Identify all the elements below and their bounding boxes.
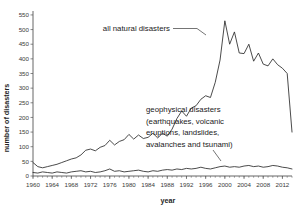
y-tick-label: 100 (19, 143, 30, 150)
x-tick-label: 2004 (237, 181, 251, 188)
y-tick-label: 350 (19, 70, 30, 77)
annotation-geophysical-line: (earthquakes, volcanic (146, 117, 224, 126)
x-tick-label: 2000 (218, 181, 232, 188)
x-tick-label: 1992 (180, 181, 194, 188)
y-tick-label: 400 (19, 55, 30, 62)
x-tick-label: 1976 (103, 181, 117, 188)
x-axis-ticks: 1960196419681972197619801984198819921996… (26, 176, 290, 188)
y-tick-label: 150 (19, 128, 30, 135)
y-tick-label: 250 (19, 99, 30, 106)
leader-line-geophysical (213, 150, 221, 161)
y-tick-label: 550 (19, 11, 30, 18)
leader-line-all-natural (173, 29, 206, 36)
annotation-geophysical-disasters: geophysical disasters(earthquakes, volca… (146, 105, 233, 149)
x-tick-label: 2012 (276, 181, 290, 188)
y-tick-label: 500 (19, 26, 30, 33)
x-tick-label: 1988 (160, 181, 174, 188)
x-tick-label: 1996 (199, 181, 213, 188)
x-tick-label: 1968 (64, 181, 78, 188)
y-tick-label: 200 (19, 114, 30, 121)
chart-figure: 050100150200250300350400450500550 196019… (0, 0, 298, 207)
y-tick-label: 450 (19, 40, 30, 47)
y-tick-label: 50 (22, 158, 29, 165)
x-tick-label: 1984 (141, 181, 155, 188)
y-axis-ticks: 050100150200250300350400450500550 (19, 11, 33, 179)
y-axis-label: number of disasters (2, 84, 11, 153)
x-tick-label: 1972 (84, 181, 98, 188)
x-tick-label: 1980 (122, 181, 136, 188)
annotation-geophysical-line: avalanches and tsunami) (146, 140, 233, 149)
x-tick-label: 2008 (256, 181, 270, 188)
y-tick-label: 0 (26, 172, 30, 179)
x-axis-label: year (161, 196, 176, 205)
x-tick-label: 1964 (45, 181, 59, 188)
annotation-geophysical-line: eruptions, landslides, (146, 128, 219, 137)
series-line-geophysical-disasters (33, 165, 292, 173)
annotation-all-natural-disasters: all natural disasters (103, 24, 170, 33)
annotation-geophysical-line: geophysical disasters (146, 105, 221, 114)
y-tick-label: 300 (19, 84, 30, 91)
x-tick-label: 1960 (26, 181, 40, 188)
line-chart: 050100150200250300350400450500550 196019… (0, 0, 298, 207)
